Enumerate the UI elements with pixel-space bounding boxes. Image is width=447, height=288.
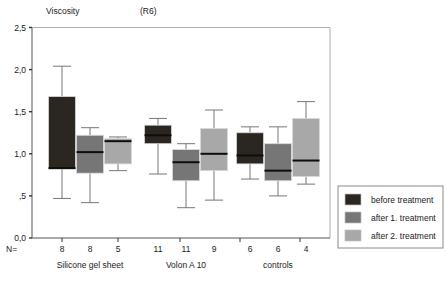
viscosity-boxplot-chart: Viscosity(R6)0,0,51,01,52,02,5N=88511119… — [0, 0, 447, 288]
boxplot-box — [237, 127, 264, 179]
box-rect — [173, 150, 200, 181]
n-value-label: 5 — [116, 244, 121, 254]
group-label: Volon A 10 — [166, 260, 206, 270]
box-rect — [49, 97, 76, 169]
legend-swatch — [345, 194, 361, 205]
n-value-label: 6 — [276, 244, 281, 254]
legend-swatch — [345, 230, 361, 241]
legend-label: before treatment — [371, 195, 434, 205]
n-value-label: 4 — [304, 244, 309, 254]
box-rect — [293, 118, 320, 176]
boxplot-box — [145, 118, 172, 174]
y-tick-label: 0,0 — [14, 233, 26, 243]
boxplot-box — [265, 127, 292, 196]
group-label: controls — [263, 260, 293, 270]
y-tick-label: 2,0 — [14, 65, 26, 75]
legend-label: after 1. treatment — [371, 213, 436, 223]
box-rect — [201, 129, 228, 171]
n-value-label: 9 — [212, 244, 217, 254]
n-value-label: 6 — [248, 244, 253, 254]
box-rect — [105, 139, 132, 164]
n-value-label: 8 — [88, 244, 93, 254]
n-value-label: 11 — [154, 244, 163, 254]
boxplot-box — [49, 66, 76, 198]
y-tick-label: 1,0 — [14, 149, 26, 159]
chart-title-suffix: (R6) — [140, 6, 157, 16]
chart-svg: Viscosity(R6)0,0,51,01,52,02,5N=88511119… — [0, 0, 447, 288]
y-tick-label: 2,5 — [14, 23, 26, 33]
boxplot-box — [105, 137, 132, 171]
boxplot-box — [201, 110, 228, 200]
legend-swatch — [345, 212, 361, 223]
box-rect — [77, 135, 104, 173]
group-label: Silicone gel sheet — [57, 260, 124, 270]
n-value-label: 11 — [182, 244, 191, 254]
chart-title: Viscosity — [46, 6, 80, 16]
boxplot-box — [293, 102, 320, 185]
box-rect — [265, 144, 292, 181]
boxplot-box — [173, 144, 200, 208]
y-tick-label: 1,5 — [14, 107, 26, 117]
n-row-prefix: N= — [6, 244, 17, 254]
y-tick-label: ,5 — [19, 191, 26, 201]
n-value-label: 8 — [60, 244, 65, 254]
boxplot-box — [77, 128, 104, 203]
box-rect — [237, 133, 264, 164]
legend-label: after 2. treatment — [371, 231, 436, 241]
